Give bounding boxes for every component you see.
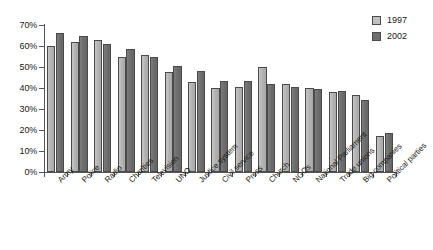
- bar-1997-radio: [94, 40, 102, 172]
- y-axis-tick-label: 20%: [0, 126, 37, 135]
- legend-item-label: 1997: [387, 16, 407, 25]
- bar-2002-justice-system: [197, 71, 205, 172]
- y-axis-tick-label-text: 70%: [1, 21, 37, 30]
- y-axis-tick-label-text: 50%: [1, 63, 37, 72]
- legend-swatch-icon: [372, 16, 381, 25]
- bar-1997-national-parliament: [305, 88, 313, 172]
- bar-2002-police: [79, 36, 87, 173]
- x-axis-tick: [44, 172, 45, 177]
- y-axis-tick-label-text: 60%: [1, 42, 37, 51]
- chart-legend: 19972002: [372, 16, 432, 48]
- legend-item-2002[interactable]: 2002: [372, 32, 432, 41]
- bar-2002-television: [150, 57, 158, 173]
- bar-1997-charities: [118, 57, 126, 173]
- y-axis-tick-label-text: 40%: [1, 84, 37, 93]
- bar-1997-television: [141, 55, 149, 172]
- bar-group: [161, 25, 184, 172]
- y-axis-tick-label: 50%: [0, 63, 37, 72]
- bar-group: [279, 25, 302, 172]
- bar-group: [67, 25, 90, 172]
- y-axis-tick-label-text: 10%: [1, 147, 37, 156]
- bar-group: [91, 25, 114, 172]
- bar-group: [114, 25, 137, 172]
- bar-2002-church: [267, 84, 275, 172]
- bar-1997-army: [47, 46, 55, 172]
- bar-group: [302, 25, 325, 172]
- bar-1997-church: [258, 67, 266, 172]
- bar-group: [44, 25, 67, 172]
- bar-1997-ngos: [282, 84, 290, 172]
- y-axis-tick-label: 10%: [0, 147, 37, 156]
- bar-group: [255, 25, 278, 172]
- bar-group: [185, 25, 208, 172]
- y-axis-tick-label-text: 20%: [1, 126, 37, 135]
- bar-2002-ngos: [291, 87, 299, 172]
- bar-1997-police: [71, 42, 79, 172]
- bar-2002-national-parliament: [314, 89, 322, 172]
- y-axis-tick-label: 30%: [0, 105, 37, 114]
- bar-chart: 70%60%50%40%30%20%10%0% ArmyPoliceRadioC…: [0, 0, 433, 250]
- legend-item-1997[interactable]: 1997: [372, 16, 432, 25]
- y-axis-tick-label: 60%: [0, 42, 37, 51]
- y-axis-tick-label: 70%: [0, 21, 37, 30]
- bar-group: [138, 25, 161, 172]
- legend-swatch-icon: [372, 32, 381, 41]
- y-axis-tick-label-text: 0%: [1, 168, 37, 177]
- bar-1997-justice-system: [188, 82, 196, 172]
- legend-item-label: 2002: [387, 32, 407, 41]
- bar-2002-army: [56, 33, 64, 172]
- bar-2002-charities: [126, 49, 134, 172]
- y-axis-tick-label-text: 30%: [1, 105, 37, 114]
- bar-2002-radio: [103, 44, 111, 172]
- y-axis-tick-label: 0%: [0, 168, 37, 177]
- y-axis-tick-label: 40%: [0, 84, 37, 93]
